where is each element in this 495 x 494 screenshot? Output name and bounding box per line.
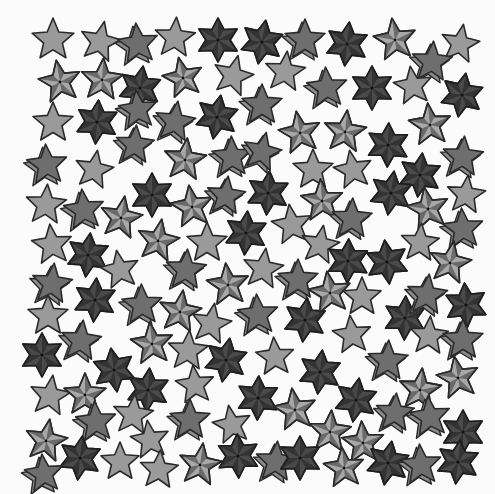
star-pattern-canvas <box>0 0 495 494</box>
